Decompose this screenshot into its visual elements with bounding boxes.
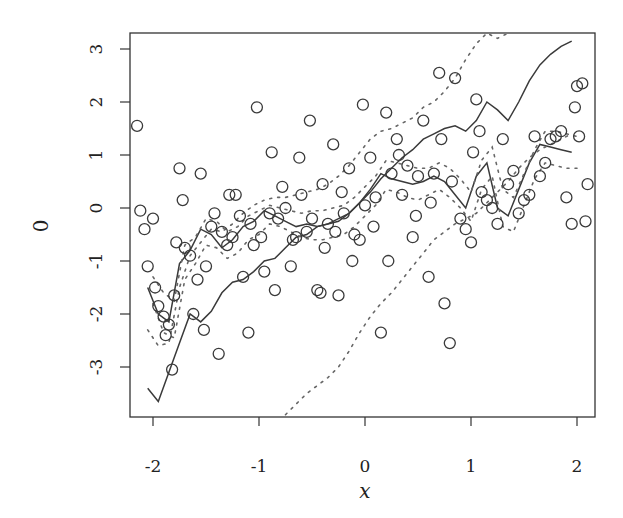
- data-point: [213, 348, 224, 359]
- data-point: [328, 139, 339, 150]
- data-point: [251, 102, 262, 113]
- data-point: [266, 147, 277, 158]
- data-point: [413, 171, 424, 182]
- data-point: [439, 298, 450, 309]
- y-tick-label: 1: [86, 150, 106, 161]
- data-point: [336, 187, 347, 198]
- data-point: [436, 134, 447, 145]
- data-point: [492, 218, 503, 229]
- inner-band-lower-dotted-line: [153, 163, 577, 338]
- data-point: [317, 179, 328, 190]
- data-point: [455, 213, 466, 224]
- y-tick-label: 3: [86, 44, 106, 55]
- data-point: [222, 240, 233, 251]
- data-point: [423, 271, 434, 282]
- data-point: [381, 107, 392, 118]
- data-point: [216, 226, 227, 237]
- y-tick-label: -2: [86, 306, 106, 323]
- data-point: [580, 216, 591, 227]
- data-point: [487, 203, 498, 214]
- data-point: [158, 311, 169, 322]
- data-point: [269, 285, 280, 296]
- series-layer: [148, 33, 577, 415]
- data-point: [370, 192, 381, 203]
- data-point: [330, 226, 341, 237]
- scatter-plot: -2-1012 -3-2-10123 x 0: [0, 0, 623, 518]
- data-point: [142, 261, 153, 272]
- points-layer: [132, 67, 593, 375]
- data-point: [386, 168, 397, 179]
- data-point: [391, 134, 402, 145]
- data-point: [529, 131, 540, 142]
- x-tick-label: -1: [251, 456, 268, 476]
- y-axis-title: 0: [29, 220, 53, 233]
- data-point: [296, 189, 307, 200]
- data-point: [375, 327, 386, 338]
- data-point: [383, 256, 394, 267]
- data-point: [333, 290, 344, 301]
- data-point: [410, 210, 421, 221]
- data-point: [582, 179, 593, 190]
- data-point: [428, 168, 439, 179]
- y-tick-label: -3: [86, 359, 106, 376]
- data-point: [234, 210, 245, 221]
- data-point: [192, 274, 203, 285]
- y-tick-label: 2: [86, 97, 106, 108]
- x-tick-label: 1: [466, 456, 477, 476]
- y-tick-label: 0: [86, 203, 106, 214]
- data-point: [195, 168, 206, 179]
- x-axis: -2-1012: [145, 417, 583, 476]
- data-point: [561, 192, 572, 203]
- data-point: [347, 256, 358, 267]
- x-tick-label: -2: [145, 456, 162, 476]
- data-point: [148, 213, 159, 224]
- data-point: [139, 224, 150, 235]
- data-point: [245, 218, 256, 229]
- data-point: [198, 324, 209, 335]
- data-point: [513, 208, 524, 219]
- x-axis-title: x: [359, 479, 370, 503]
- data-point: [450, 73, 461, 84]
- data-point: [434, 67, 445, 78]
- data-point: [468, 147, 479, 158]
- data-point: [201, 261, 212, 272]
- data-point: [425, 197, 436, 208]
- data-point: [167, 364, 178, 375]
- data-point: [224, 189, 235, 200]
- data-point: [508, 165, 519, 176]
- data-point: [243, 327, 254, 338]
- data-point: [273, 213, 284, 224]
- data-point: [418, 115, 429, 126]
- y-tick-label: -1: [86, 253, 106, 270]
- data-point: [365, 152, 376, 163]
- data-point: [304, 115, 315, 126]
- data-point: [150, 282, 161, 293]
- x-tick-label: 2: [572, 456, 583, 476]
- data-point: [566, 218, 577, 229]
- data-point: [312, 285, 323, 296]
- data-point: [319, 242, 330, 253]
- data-point: [280, 203, 291, 214]
- plot-frame: [130, 33, 595, 417]
- data-point: [259, 266, 270, 277]
- data-point: [209, 208, 220, 219]
- data-point: [444, 338, 455, 349]
- data-point: [393, 150, 404, 161]
- data-point: [357, 99, 368, 110]
- data-point: [466, 237, 477, 248]
- data-point: [307, 213, 318, 224]
- data-point: [256, 232, 267, 243]
- data-point: [397, 189, 408, 200]
- data-point: [277, 181, 288, 192]
- data-point: [294, 152, 305, 163]
- data-point: [174, 163, 185, 174]
- data-point: [446, 176, 457, 187]
- data-point: [135, 205, 146, 216]
- data-point: [315, 287, 326, 298]
- data-point: [179, 242, 190, 253]
- data-point: [481, 195, 492, 206]
- data-point: [569, 102, 580, 113]
- data-point: [476, 187, 487, 198]
- data-point: [407, 232, 418, 243]
- data-point: [177, 195, 188, 206]
